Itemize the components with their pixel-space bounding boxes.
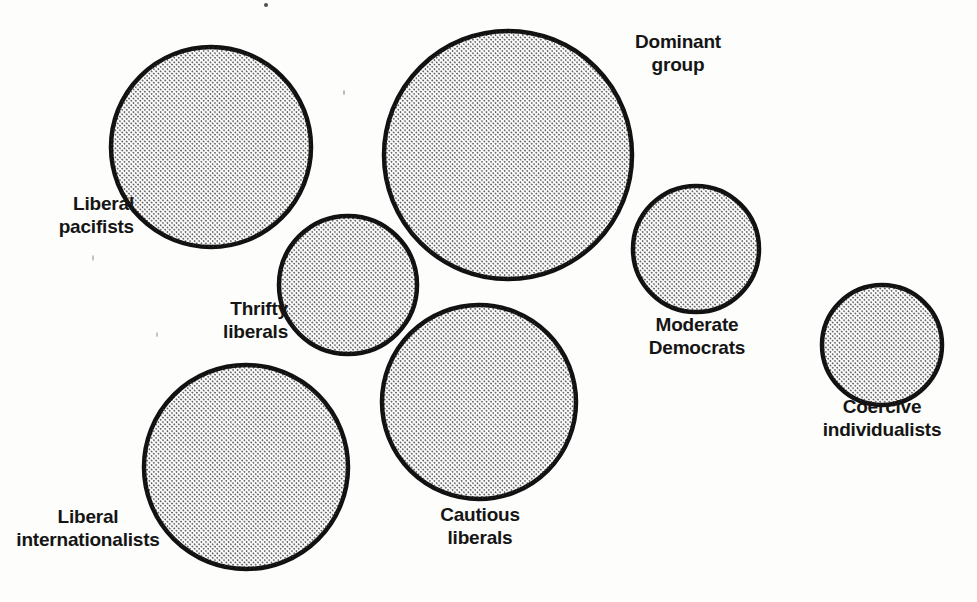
scan-speck	[264, 3, 268, 7]
label-line-1: Thrifty	[230, 298, 288, 319]
circle-moderate-democrats	[633, 186, 759, 312]
label-liberal-internationalists: Liberalinternationalists	[8, 505, 168, 551]
circle-liberal-internationalists	[144, 365, 348, 569]
label-dominant-group: Dominantgroup	[598, 30, 758, 76]
label-line-1: Coercive	[843, 396, 922, 417]
label-line-2: internationalists	[16, 529, 159, 550]
label-line-1: Liberal	[58, 506, 119, 527]
label-cautious-liberals: Cautiousliberals	[400, 503, 560, 549]
scan-speck	[343, 90, 345, 95]
circle-coercive-individualists	[822, 285, 942, 405]
label-line-2: group	[652, 54, 705, 75]
label-line-1: Liberal	[73, 193, 134, 214]
label-line-2: pacifists	[59, 216, 134, 237]
circle-liberal-pacifists	[111, 47, 311, 247]
label-line-1: Dominant	[635, 31, 721, 52]
scan-speck	[92, 255, 94, 261]
label-moderate-democrats: ModerateDemocrats	[618, 313, 776, 359]
circle-cautious-liberals	[382, 305, 576, 499]
diagram-canvas: Liberalpacifists Dominantgroup Thriftyli…	[0, 0, 977, 602]
label-line-2: liberals	[448, 527, 513, 548]
label-line-2: Democrats	[649, 337, 745, 358]
label-line-2: individualists	[823, 419, 942, 440]
label-liberal-pacifists: Liberalpacifists	[0, 192, 134, 238]
label-coercive-individualists: Coerciveindividualists	[792, 395, 972, 441]
label-line-1: Moderate	[656, 314, 739, 335]
circle-dominant-group	[384, 31, 632, 279]
label-line-1: Cautious	[440, 504, 520, 525]
label-thrifty-liberals: Thriftyliberals	[150, 297, 288, 343]
circle-thrifty-liberals	[279, 216, 417, 354]
label-line-2: liberals	[223, 321, 288, 342]
